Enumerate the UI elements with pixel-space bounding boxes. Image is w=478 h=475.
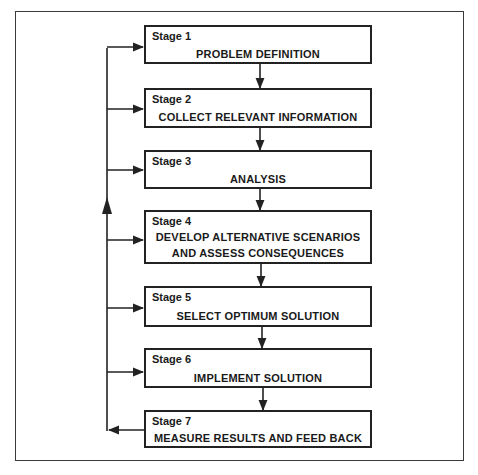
stage-4-title-line-1: DEVELOP ALTERNATIVE SCENARIOS xyxy=(146,229,370,245)
stage-4-title-line-2: AND ASSESS CONSEQUENCES xyxy=(146,245,370,261)
stage-2-title: COLLECT RELEVANT INFORMATION xyxy=(146,109,370,125)
stage-2-box: Stage 2 COLLECT RELEVANT INFORMATION xyxy=(144,88,372,128)
stage-4-label: Stage 4 xyxy=(152,215,191,227)
stage-7-label: Stage 7 xyxy=(152,415,191,427)
stage-3-box: Stage 3 ANALYSIS xyxy=(144,150,372,189)
stage-6-label: Stage 6 xyxy=(152,353,191,365)
stage-6-box: Stage 6 IMPLEMENT SOLUTION xyxy=(144,348,372,388)
feedback-up-arrow-icon xyxy=(102,197,112,214)
stage-4-box: Stage 4 DEVELOP ALTERNATIVE SCENARIOS AN… xyxy=(144,210,372,264)
stage-3-title: ANALYSIS xyxy=(146,171,370,187)
stage-7-box: Stage 7 MEASURE RESULTS AND FEED BACK xyxy=(144,410,372,448)
stage-7-title: MEASURE RESULTS AND FEED BACK xyxy=(146,430,370,446)
stage-1-box: Stage 1 PROBLEM DEFINITION xyxy=(144,25,372,64)
stage-1-title: PROBLEM DEFINITION xyxy=(146,46,370,62)
stage-6-title: IMPLEMENT SOLUTION xyxy=(146,370,370,386)
stage-5-box: Stage 5 SELECT OPTIMUM SOLUTION xyxy=(144,286,372,327)
stage-3-label: Stage 3 xyxy=(152,155,191,167)
diagram-canvas: Stage 1 PROBLEM DEFINITION Stage 2 COLLE… xyxy=(0,0,478,475)
stage-5-title: SELECT OPTIMUM SOLUTION xyxy=(146,308,370,324)
stage-5-label: Stage 5 xyxy=(152,291,191,303)
stage-1-label: Stage 1 xyxy=(152,30,191,42)
stage-2-label: Stage 2 xyxy=(152,93,191,105)
